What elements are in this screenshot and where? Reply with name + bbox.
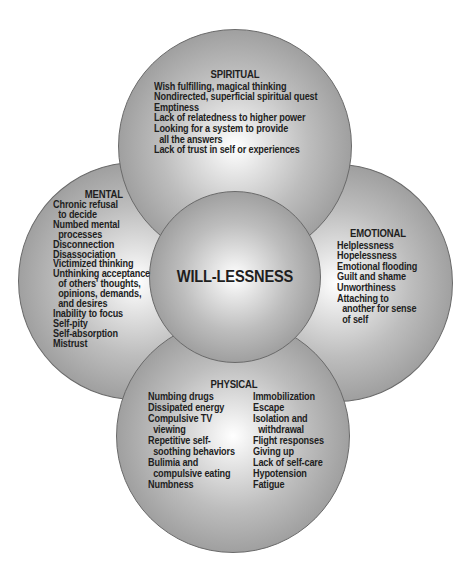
physical-title: PHYSICAL xyxy=(157,379,312,390)
emotional-text: EMOTIONAL Helplessness Hopelessness Emot… xyxy=(337,228,430,324)
center-label: WILL-LESSNESS xyxy=(172,267,298,287)
list-item: Numbness xyxy=(148,479,235,490)
physical-right-column: Immobilization Escape Isolation and with… xyxy=(253,391,335,490)
physical-title-wrap: PHYSICAL xyxy=(148,379,320,391)
list-item: Lack of trust in self or experiences xyxy=(154,144,309,155)
spiritual-text: SPIRITUAL Wish fulfilling, magical think… xyxy=(154,69,334,155)
spiritual-title: SPIRITUAL xyxy=(162,69,308,80)
emotional-title: EMOTIONAL xyxy=(341,228,415,239)
physical-left-column: Numbing drugs Dissipated energy Compulsi… xyxy=(148,391,249,490)
mental-text: MENTAL Chronic refusal to decide Numbed … xyxy=(53,189,166,349)
list-item: of self xyxy=(337,314,417,325)
list-item: Mistrust xyxy=(53,339,150,349)
list-item: Fatigue xyxy=(253,479,324,490)
